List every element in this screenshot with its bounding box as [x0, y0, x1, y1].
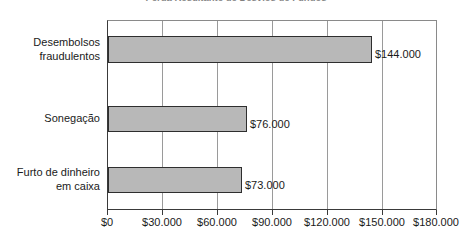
tick-mark-30000 — [162, 210, 163, 215]
bar-furto-de-dinheiro-em-caixa — [108, 167, 242, 193]
tick-mark-0 — [107, 210, 108, 215]
tick-label-120000: $120.000 — [304, 216, 350, 229]
category-label-desembolsos-fraudulentos: Desembolsos fraudulentos — [0, 36, 100, 63]
bar-desembolsos-fraudulentos — [108, 36, 372, 63]
tick-mark-60000 — [217, 210, 218, 215]
bar-sonegacao — [108, 106, 247, 132]
bar-chart: Perda Resultante de Desvios de Fundos De… — [0, 0, 472, 250]
value-label-sonegacao: $76.000 — [250, 118, 290, 130]
tick-label-30000: $30.000 — [142, 216, 182, 229]
value-label-furto-de-dinheiro-em-caixa: $73.000 — [245, 179, 285, 191]
category-label-line: fraudulentos — [0, 50, 100, 64]
category-label-furto-de-dinheiro-em-caixa: Furto de dinheiro em caixa — [0, 166, 100, 193]
category-label-line: Desembolsos — [0, 36, 100, 50]
tick-mark-150000 — [382, 210, 383, 215]
tick-label-0: $0 — [101, 216, 113, 229]
tick-mark-90000 — [272, 210, 273, 215]
category-label-line: Sonegação — [0, 112, 100, 126]
tick-label-90000: $90.000 — [252, 216, 292, 229]
tick-mark-120000 — [327, 210, 328, 215]
tick-mark-180000 — [436, 210, 437, 215]
chart-title: Perda Resultante de Desvios de Fundos — [0, 0, 472, 2]
tick-label-180000: $180.000 — [413, 216, 459, 229]
tick-label-60000: $60.000 — [197, 216, 237, 229]
category-label-line: em caixa — [0, 180, 100, 194]
value-label-desembolsos-fraudulentos: $144.000 — [375, 48, 421, 60]
category-label-sonegacao: Sonegação — [0, 112, 100, 126]
category-label-line: Furto de dinheiro — [0, 166, 100, 180]
tick-label-150000: $150.000 — [359, 216, 405, 229]
